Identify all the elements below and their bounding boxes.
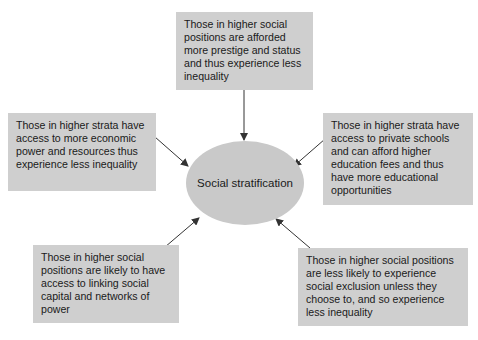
box-text: Those in higher social positions are lik… [41, 251, 165, 315]
box-education: Those in higher strata have access to pr… [323, 113, 473, 205]
box-text: Those in higher social positions are les… [306, 254, 454, 318]
center-label: Social stratification [197, 177, 293, 189]
box-social-capital: Those in higher social positions are lik… [33, 245, 179, 323]
arrow-right [294, 139, 325, 166]
box-text: Those in higher strata have access to mo… [16, 119, 144, 170]
arrow-bottom-right [276, 219, 310, 248]
box-prestige-status: Those in higher social positions are aff… [176, 12, 313, 90]
arrow-bottom-left [165, 218, 199, 247]
box-text: Those in higher social positions are aff… [184, 18, 301, 82]
arrow-left [155, 137, 188, 166]
box-economic-power: Those in higher strata have access to mo… [8, 113, 156, 191]
box-social-exclusion: Those in higher social positions are les… [298, 248, 468, 326]
center-node-social-stratification: Social stratification [186, 141, 304, 225]
box-text: Those in higher strata have access to pr… [331, 119, 459, 196]
